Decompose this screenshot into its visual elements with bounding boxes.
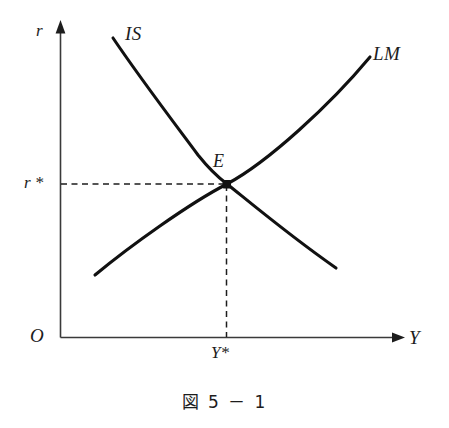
lm-curve-label: LM — [373, 44, 400, 63]
lm-curve — [95, 57, 370, 275]
equilibrium-point-marker — [223, 180, 231, 188]
islm-figure: r Y O IS LM E r * Y* 図 5 － 1 — [0, 0, 449, 428]
figure-caption: 図 5 － 1 — [0, 388, 449, 413]
x-axis-tick-label-y-star: Y* — [211, 344, 229, 361]
is-curve — [113, 38, 336, 268]
y-axis-tick-label-r-star: r * — [24, 174, 43, 191]
is-curve-label: IS — [125, 24, 142, 43]
y-axis-arrowhead — [56, 20, 66, 34]
equilibrium-point-label: E — [213, 152, 224, 170]
origin-label: O — [30, 326, 44, 345]
y-axis — [56, 20, 66, 338]
x-axis — [61, 333, 406, 343]
islm-chart-canvas — [0, 0, 449, 428]
x-axis-label: Y — [409, 328, 420, 347]
x-axis-arrowhead — [392, 333, 405, 343]
y-axis-label: r — [36, 22, 43, 39]
